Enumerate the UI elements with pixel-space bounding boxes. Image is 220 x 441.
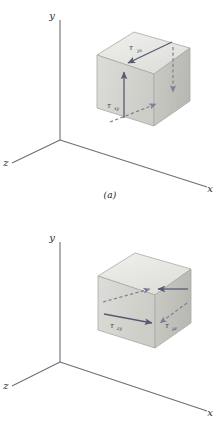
panel-a-caption: (a) xyxy=(0,190,220,200)
figure-root: y x z xyxy=(0,0,220,441)
tau-yz-symbol: τ xyxy=(165,322,169,330)
axis-label-z: z xyxy=(2,380,9,391)
tau-xy-symbol: τ xyxy=(107,102,111,110)
axis-label-y: y xyxy=(48,10,55,21)
axis-label-z: z xyxy=(2,157,9,168)
panel-a: y x z xyxy=(0,0,220,220)
axis-label-y: y xyxy=(48,232,55,243)
cube-a xyxy=(97,32,190,126)
panel-a-graphic: y x z xyxy=(0,0,220,220)
panel-b: y x z τ zy xyxy=(0,220,220,441)
x-axis-line xyxy=(60,140,207,187)
z-axis-line xyxy=(12,140,60,163)
z-axis-line xyxy=(12,362,60,386)
tau-zy-symbol: τ xyxy=(110,322,114,330)
x-axis-line xyxy=(60,362,207,411)
cube-b xyxy=(98,253,191,348)
panel-b-graphic: y x z τ zy xyxy=(0,220,220,441)
axis-label-x: x xyxy=(207,407,213,418)
tau-yx-symbol: τ xyxy=(129,44,133,52)
